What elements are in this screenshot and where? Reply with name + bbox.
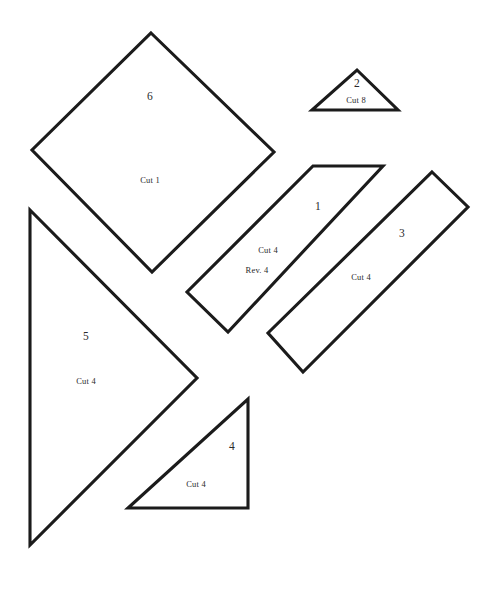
piece-number-label-5: 5	[83, 330, 89, 342]
piece-cut-label-4: Cut 4	[186, 479, 206, 489]
piece-number-label-3: 3	[399, 227, 405, 239]
piece-reverse-label-1: Rev. 4	[246, 265, 269, 275]
piece-cut-label-5: Cut 4	[76, 376, 96, 386]
piece-cut-label-1: Cut 4	[258, 245, 278, 255]
piece-number-label-6: 6	[147, 90, 153, 102]
piece-number-label-1: 1	[315, 200, 321, 212]
piece-number-label-4: 4	[229, 440, 235, 452]
piece-cut-label-2: Cut 8	[346, 95, 366, 105]
piece-cut-label-6: Cut 1	[140, 175, 160, 185]
piece-number-label-2: 2	[354, 77, 360, 89]
pattern-sheet: 6Cut 12Cut 81Cut 4Rev. 43Cut 45Cut 44Cut…	[0, 0, 495, 589]
pattern-shapes-canvas	[0, 0, 495, 589]
pattern-piece-6	[32, 33, 274, 272]
piece-cut-label-3: Cut 4	[351, 272, 371, 282]
